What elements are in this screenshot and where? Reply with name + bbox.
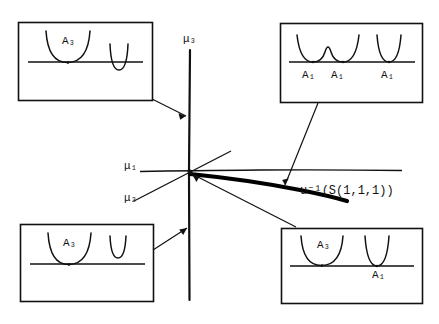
tangency-point bbox=[68, 263, 71, 266]
tangency-point bbox=[342, 61, 344, 63]
tangency-point bbox=[388, 61, 390, 63]
inset-label-a3-bottomleft: A₃ bbox=[63, 238, 76, 249]
mu1-label: μ₁ bbox=[124, 161, 137, 172]
inset-label-a3-topleft: A₃ bbox=[62, 36, 75, 47]
parabola-a1 bbox=[365, 236, 389, 266]
tangency-point bbox=[312, 61, 314, 63]
parabola-narrow bbox=[110, 44, 128, 70]
inset-label-a1-topright-1: A₁ bbox=[302, 70, 315, 81]
center-intersection-point bbox=[188, 170, 193, 175]
inset-label-a3-bottomright: A₃ bbox=[317, 240, 330, 251]
top-right-inset bbox=[281, 24, 423, 103]
connector-top-right bbox=[282, 103, 318, 185]
parabola-narrow bbox=[110, 236, 126, 258]
tangency-point bbox=[67, 61, 70, 64]
inset-label-a1-topright-2: A₁ bbox=[331, 70, 344, 81]
bottom-right-inset bbox=[282, 229, 423, 304]
mu1-axis-line bbox=[140, 170, 402, 172]
double-well-curve bbox=[297, 35, 359, 62]
inset-label-a1-topright-3: A₁ bbox=[381, 70, 394, 81]
connector-bottom-left bbox=[153, 228, 187, 250]
connector-top-left bbox=[152, 99, 186, 120]
mu2-label: μ₂ bbox=[124, 193, 137, 204]
inset-label-a1-bottomright: A₁ bbox=[372, 270, 385, 281]
tangency-point bbox=[321, 264, 324, 267]
mu3-label: μ₃ bbox=[183, 34, 196, 45]
parabola-narrow bbox=[377, 35, 401, 62]
preimage-curve-label: u⁻¹(S(1,1,1)) bbox=[300, 185, 394, 197]
tangency-point bbox=[376, 265, 378, 267]
top-left-inset bbox=[19, 23, 153, 101]
bottom-left-inset bbox=[21, 225, 154, 302]
